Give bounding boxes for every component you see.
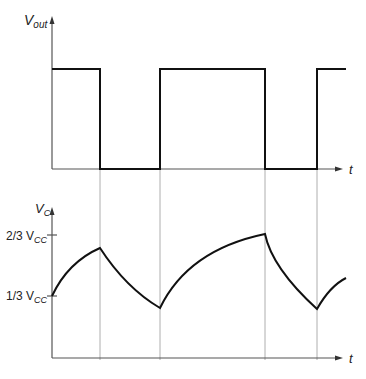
vout-plot: Vout t (24, 12, 354, 177)
two-thirds-vcc-label: 2/3 VCC (6, 229, 48, 245)
vc-t-label: t (349, 351, 354, 366)
vc-capacitor-waveform (52, 234, 346, 309)
vout-label: Vout (24, 12, 48, 30)
one-third-vcc-label: 1/3 VCC (6, 289, 48, 305)
vc-label: VC (35, 201, 51, 218)
waveform-diagram: Vout t VC 2/3 VCC 1/3 VCC t (0, 0, 366, 379)
guide-lines (100, 170, 317, 360)
vc-y-axis-arrow-icon (50, 207, 55, 215)
vout-y-axis-arrow-icon (50, 16, 55, 24)
vout-square-wave (52, 69, 346, 169)
vc-x-axis-arrow-icon (335, 356, 343, 361)
vc-plot: VC 2/3 VCC 1/3 VCC t (6, 201, 354, 366)
vout-t-label: t (349, 162, 354, 177)
vout-x-axis-arrow-icon (335, 167, 343, 172)
